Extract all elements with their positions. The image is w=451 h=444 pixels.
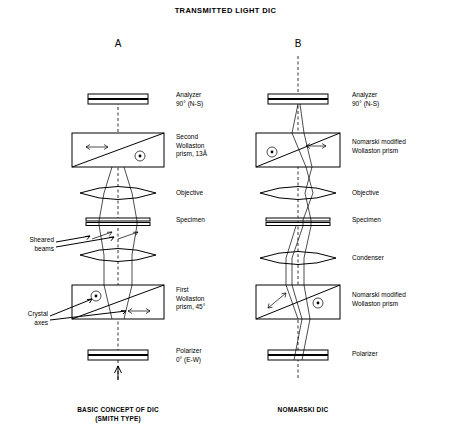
leader-sheared-beams-2	[56, 237, 114, 247]
polarizer-plate-b-1	[268, 350, 328, 355]
caption-a-line1: BASIC CONCEPT OF DIC	[38, 405, 198, 414]
label-second-wollaston-prism-a: Second Wollaston prism, 13Å	[176, 133, 266, 159]
label-first-wollaston-prism-a: First Wollaston prism, 45°	[176, 286, 266, 312]
wollaston-a-first-axis-dot	[95, 295, 98, 298]
label-specimen-a: Specimen	[176, 216, 266, 225]
caption-a-line2: (SMITH TYPE)	[38, 414, 198, 423]
label-polarizer-b: Polarizer	[352, 350, 448, 359]
specimen-slide-a-1	[86, 218, 150, 221]
analyzer-plate-a-2	[88, 100, 148, 105]
polarizer-plate-a-2	[88, 356, 148, 361]
analyzer-plate-a-1	[88, 94, 148, 99]
label-objective-a: Objective	[176, 189, 266, 198]
label-analyzer-b: Analyzer 90° (N-S)	[352, 91, 448, 108]
wollaston-a-bottom-axis-dot	[139, 155, 142, 158]
label-nomarski-prism-bottom: Nomarski modified Wollaston prism	[352, 291, 448, 308]
leader-sheared-beams-1	[56, 236, 90, 242]
polarizer-plate-a-1	[88, 350, 148, 355]
label-condenser-b: Condenser	[352, 254, 448, 263]
caption-b-line1: NOMARSKI DIC	[228, 405, 378, 414]
condenser-lens-b	[260, 252, 336, 265]
label-specimen-b: Specimen	[352, 216, 448, 225]
analyzer-plate-b-2	[268, 100, 328, 105]
nomarski-top-axis-dot	[271, 151, 274, 154]
nomarski-bottom-axis-dot	[317, 302, 320, 305]
polarizer-plate-b-2	[268, 356, 328, 361]
specimen-slide-b-2	[266, 223, 330, 226]
label-analyzer-a: Analyzer 90° (N-S)	[176, 91, 266, 108]
analyzer-plate-b-1	[268, 94, 328, 99]
specimen-slide-b-1	[266, 218, 330, 221]
label-polarizer-a: Polarizer 0° (E-W)	[176, 347, 266, 364]
label-objective-b: Objective	[352, 189, 448, 198]
specimen-slide-a-2	[86, 223, 150, 226]
annotation-crystal-axes: Crystal axes	[0, 310, 48, 327]
label-nomarski-prism-top: Nomarski modified Wollaston prism	[352, 138, 448, 155]
annotation-sheared-beams: Sheared beams	[0, 236, 54, 253]
